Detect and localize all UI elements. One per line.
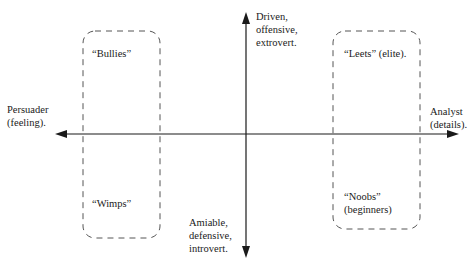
vertical-axis [242, 12, 250, 258]
arrow-right-icon [447, 130, 459, 138]
persuader-label: Persuader (feeling). [7, 103, 48, 129]
amiable-label-line3: introvert. [189, 242, 232, 255]
amiable-label: Amiable, defensive, introvert. [189, 216, 232, 255]
arrow-down-icon [242, 246, 250, 258]
driven-label-line2: offensive, [256, 23, 298, 36]
persuader-label-line2: (feeling). [7, 116, 48, 129]
driven-label: Driven, offensive, extrovert. [256, 10, 298, 49]
amiable-label-line1: Amiable, [189, 216, 232, 229]
noobs-label-line2: (beginners) [344, 203, 392, 216]
noobs-label: “Noobs” (beginners) [344, 190, 392, 216]
arrow-up-icon [242, 12, 250, 24]
diagram-canvas [0, 0, 474, 265]
horizontal-axis [55, 130, 459, 138]
driven-label-line3: extrovert. [256, 36, 298, 49]
amiable-label-line2: defensive, [189, 229, 232, 242]
noobs-label-line1: “Noobs” [344, 190, 392, 203]
leets-label: “Leets” (elite). [344, 47, 406, 60]
wimps-label: “Wimps” [92, 197, 131, 210]
analyst-label: Analyst (details). [430, 105, 467, 131]
persuader-label-line1: Persuader [7, 103, 48, 116]
analyst-label-line2: (details). [430, 118, 467, 131]
driven-label-line1: Driven, [256, 10, 298, 23]
arrow-left-icon [55, 130, 67, 138]
bullies-label: “Bullies” [92, 47, 131, 60]
analyst-label-line1: Analyst [430, 105, 467, 118]
